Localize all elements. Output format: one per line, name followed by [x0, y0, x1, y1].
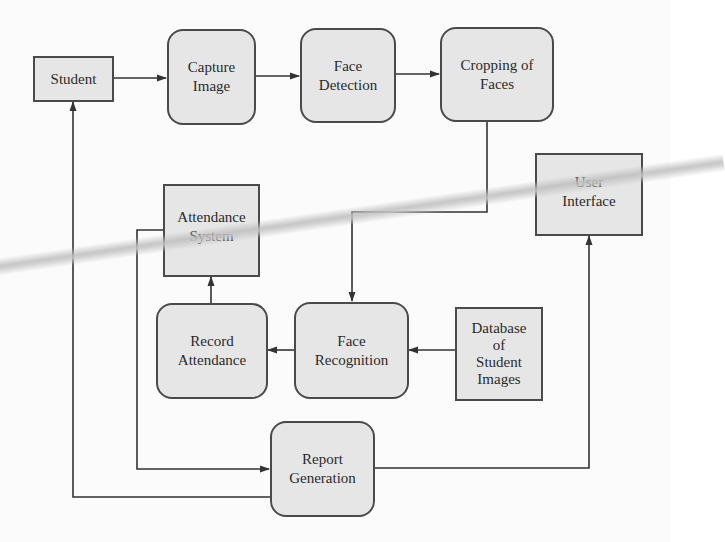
node-record-attendance-label: Record Attendance: [178, 332, 246, 370]
node-report-generation-label: Report Generation: [289, 450, 356, 488]
node-user-interface: User Interface: [535, 153, 643, 236]
node-face-recognition-label: Face Recognition: [315, 332, 388, 370]
node-cropping-of-faces-label: Cropping of Faces: [461, 56, 534, 94]
node-face-detection-label: Face Detection: [319, 57, 377, 95]
node-cropping-of-faces: Cropping of Faces: [440, 27, 554, 122]
node-attendance-system-label: Attendance System: [177, 208, 245, 246]
edge-report-student: [73, 102, 270, 497]
node-student: Student: [33, 56, 114, 102]
node-database-label: Database of Student Images: [472, 320, 527, 388]
node-record-attendance: Record Attendance: [156, 303, 268, 399]
node-student-label: Student: [51, 70, 97, 89]
node-database-student-images: Database of Student Images: [455, 307, 543, 401]
node-face-detection: Face Detection: [300, 28, 396, 123]
node-face-recognition: Face Recognition: [294, 302, 409, 399]
node-user-interface-label: User Interface: [562, 173, 615, 211]
node-capture-image-label: Capture Image: [188, 58, 235, 96]
node-capture-image: Capture Image: [167, 29, 256, 125]
edge-cropping-recognition: [352, 121, 487, 301]
node-report-generation: Report Generation: [270, 421, 375, 517]
node-attendance-system: Attendance System: [163, 184, 260, 277]
